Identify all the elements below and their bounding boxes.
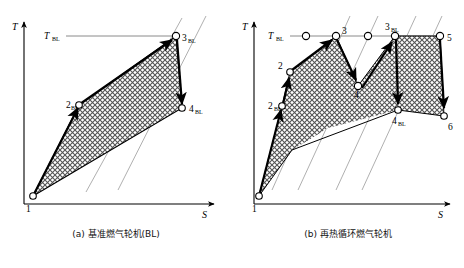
panel-a: T S T BL 1 2 BL 3 BL 4 BL (a) 基准燃气轮机(BL)	[0, 0, 232, 268]
y-axis-label-b: T	[242, 21, 249, 32]
plot-a: T S T BL 1 2 BL 3 BL 4 BL	[0, 0, 232, 222]
point-marker-1-b	[256, 193, 263, 200]
point-label-3bl-b: 3	[385, 22, 390, 32]
point-label-4bl-sub-b: BL	[398, 121, 406, 127]
point-label-2bl-sub-a: BL	[71, 105, 79, 111]
point-marker-1-a	[30, 193, 37, 200]
point-marker-3bl-a	[172, 32, 179, 39]
point-label-3-b: 3	[342, 26, 347, 36]
point-label-6-b: 6	[448, 122, 453, 132]
point-label-3bl-a: 3	[182, 33, 187, 43]
caption-b: (b) 再热循环燃气轮机	[232, 228, 464, 240]
isotherm-label-b: T	[268, 31, 274, 41]
point-marker-4-b	[354, 82, 361, 89]
isotherm-label-sub-a: BL	[52, 36, 60, 42]
point-label-3bl-sub-a: BL	[188, 38, 196, 44]
figure-root: T S T BL 1 2 BL 3 BL 4 BL (a) 基准燃气轮机(BL)	[0, 0, 464, 268]
point-marker-4bl-b	[395, 107, 402, 114]
caption-a: (a) 基准燃气轮机(BL)	[0, 228, 232, 240]
plot-b-svg: T S T BL 1 2 BL 2 3 4 3 BL 4 BL 5 6	[232, 0, 464, 222]
isotherm-label-a: T	[44, 31, 50, 41]
point-label-4bl-sub-a: BL	[195, 109, 203, 115]
point-label-3bl-sub-b: BL	[391, 27, 399, 33]
point-marker-3bl-b	[391, 32, 398, 39]
isotherm-label-sub-b: BL	[276, 36, 284, 42]
cycle-area-a	[33, 36, 182, 196]
point-label-5-b: 5	[447, 33, 452, 43]
point-label-2bl-b: 2	[268, 101, 273, 111]
point-marker-iso-2-b	[364, 32, 371, 39]
point-marker-5-b	[436, 32, 443, 39]
plot-b: T S T BL 1 2 BL 2 3 4 3 BL 4 BL 5 6	[232, 0, 464, 222]
point-label-1-a: 1	[26, 204, 31, 214]
point-label-4-b: 4	[354, 90, 359, 100]
x-axis-label-b: S	[438, 209, 443, 220]
point-marker-2-b	[287, 69, 294, 76]
plot-a-svg: T S T BL 1 2 BL 3 BL 4 BL	[0, 0, 232, 222]
y-axis-label-a: T	[12, 21, 19, 32]
point-marker-iso-1-b	[302, 32, 309, 39]
point-label-1-b: 1	[252, 204, 257, 214]
point-label-4bl-a: 4	[189, 104, 194, 114]
point-marker-4bl-a	[179, 105, 186, 112]
point-marker-3-b	[332, 32, 339, 39]
point-label-2-b: 2	[278, 61, 283, 71]
x-axis-label-a: S	[202, 209, 207, 220]
point-marker-6-b	[441, 113, 448, 120]
point-label-2bl-sub-b: BL	[274, 106, 282, 112]
point-label-4bl-b: 4	[392, 116, 397, 126]
panel-b: T S T BL 1 2 BL 2 3 4 3 BL 4 BL 5 6	[232, 0, 464, 268]
